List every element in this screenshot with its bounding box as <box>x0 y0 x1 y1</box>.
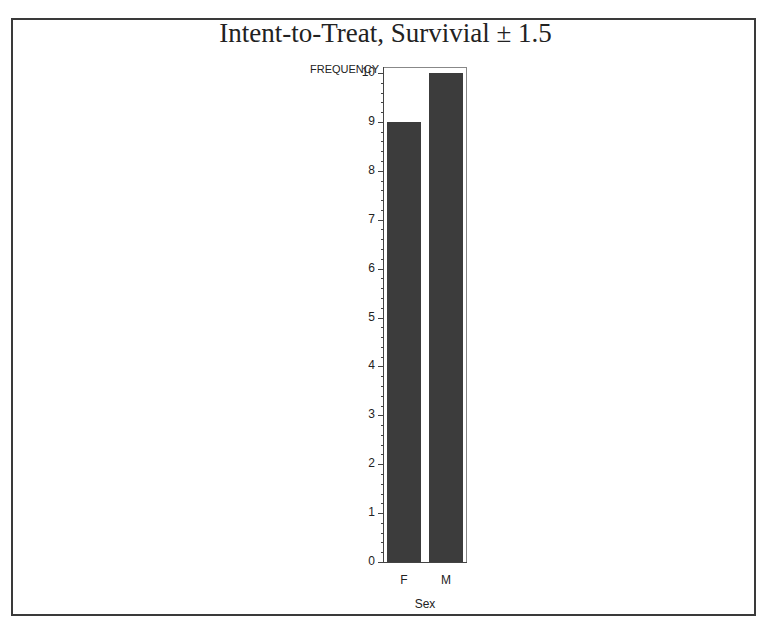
y-minor-tick <box>381 249 383 250</box>
y-tick <box>378 269 383 270</box>
y-tick-label: 0 <box>355 554 375 568</box>
y-minor-tick <box>381 298 383 299</box>
y-minor-tick <box>381 523 383 524</box>
y-minor-tick <box>381 386 383 387</box>
x-axis <box>378 562 467 563</box>
y-minor-tick <box>381 494 383 495</box>
y-minor-tick <box>381 454 383 455</box>
y-minor-tick <box>381 445 383 446</box>
y-tick <box>378 171 383 172</box>
y-minor-tick <box>381 161 383 162</box>
y-minor-tick <box>381 93 383 94</box>
y-minor-tick <box>381 533 383 534</box>
y-tick-label: 7 <box>355 212 375 226</box>
y-minor-tick <box>381 141 383 142</box>
y-tick-label: 5 <box>355 310 375 324</box>
y-minor-tick <box>381 542 383 543</box>
chart-title: Intent-to-Treat, Survivial ± 1.5 <box>0 18 771 49</box>
y-minor-tick <box>381 210 383 211</box>
y-tick <box>378 220 383 221</box>
y-tick <box>378 513 383 514</box>
y-minor-tick <box>381 425 383 426</box>
y-tick-label: 9 <box>355 114 375 128</box>
y-minor-tick <box>381 288 383 289</box>
y-minor-tick <box>381 200 383 201</box>
y-minor-tick <box>381 102 383 103</box>
y-tick <box>378 464 383 465</box>
y-tick-label: 8 <box>355 163 375 177</box>
y-minor-tick <box>381 278 383 279</box>
y-minor-tick <box>381 396 383 397</box>
y-tick-label: 3 <box>355 407 375 421</box>
y-minor-tick <box>381 435 383 436</box>
x-axis-label: Sex <box>383 597 467 611</box>
y-minor-tick <box>381 327 383 328</box>
y-minor-tick <box>381 484 383 485</box>
y-minor-tick <box>381 83 383 84</box>
y-tick <box>378 366 383 367</box>
y-tick <box>378 122 383 123</box>
x-tick-label: M <box>429 573 463 587</box>
y-minor-tick <box>381 474 383 475</box>
y-minor-tick <box>381 229 383 230</box>
y-tick-label: 4 <box>355 358 375 372</box>
y-minor-tick <box>381 259 383 260</box>
bar-F <box>387 122 421 562</box>
y-minor-tick <box>381 132 383 133</box>
y-axis <box>383 67 384 563</box>
y-tick <box>378 318 383 319</box>
y-minor-tick <box>381 308 383 309</box>
y-minor-tick <box>381 337 383 338</box>
y-tick-label: 10 <box>355 65 375 79</box>
y-tick-label: 2 <box>355 456 375 470</box>
y-minor-tick <box>381 503 383 504</box>
y-tick <box>378 73 383 74</box>
y-minor-tick <box>381 239 383 240</box>
y-tick <box>378 562 383 563</box>
y-minor-tick <box>381 151 383 152</box>
y-minor-tick <box>381 357 383 358</box>
y-minor-tick <box>381 552 383 553</box>
x-tick-label: F <box>387 573 421 587</box>
y-minor-tick <box>381 190 383 191</box>
y-minor-tick <box>381 181 383 182</box>
y-tick-label: 1 <box>355 505 375 519</box>
y-minor-tick <box>381 347 383 348</box>
y-minor-tick <box>381 112 383 113</box>
y-tick <box>378 415 383 416</box>
y-tick-label: 6 <box>355 261 375 275</box>
bar-M <box>429 73 463 562</box>
y-minor-tick <box>381 376 383 377</box>
y-minor-tick <box>381 406 383 407</box>
